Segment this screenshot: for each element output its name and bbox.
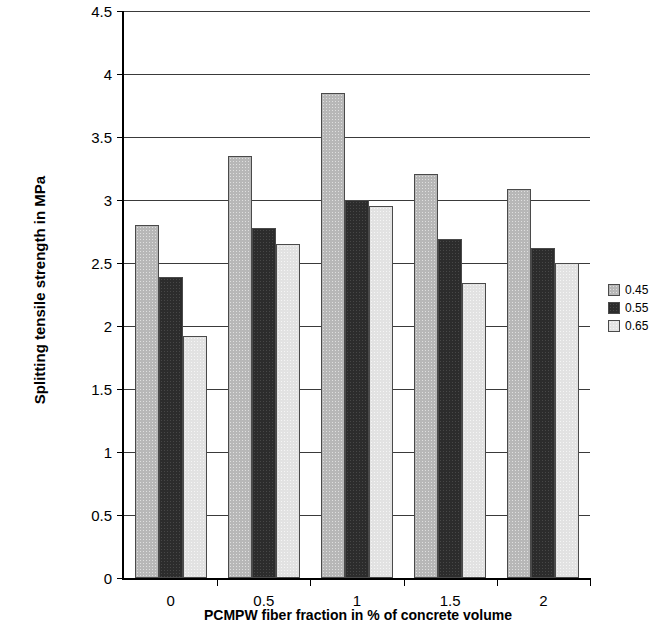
x-tick-mark (497, 578, 498, 586)
x-tick-mark (404, 578, 405, 586)
y-tick-mark (117, 74, 124, 75)
y-tick-label: 4.5 (91, 3, 112, 20)
y-tick-label: 1.5 (91, 381, 112, 398)
y-tick-mark (117, 389, 124, 390)
y-tick-label: 0.5 (91, 507, 112, 524)
y-tick-mark (117, 452, 124, 453)
y-tick-label: 2 (104, 318, 112, 335)
y-tick-mark (117, 326, 124, 327)
bar-0.55-0.5 (252, 228, 276, 578)
y-axis-title: Splitting tensile strength in MPa (26, 0, 52, 580)
bar-0.55-1.5 (438, 239, 462, 578)
x-tick-mark (217, 578, 218, 586)
legend-item-0.45: 0.45 (608, 283, 648, 297)
legend-item-0.55: 0.55 (608, 301, 648, 315)
y-tick-mark (117, 200, 124, 201)
y-tick-label: 2.5 (91, 255, 112, 272)
y-tick-label: 3.5 (91, 129, 112, 146)
y-tick-label: 3 (104, 192, 112, 209)
x-tick-mark (310, 578, 311, 586)
y-tick-label: 1 (104, 444, 112, 461)
bar-0.45-1.5 (414, 174, 438, 578)
bar-0.65-1.5 (462, 283, 486, 578)
bar-0.55-0 (159, 277, 183, 578)
legend-label: 0.65 (625, 320, 648, 332)
legend-label: 0.45 (625, 284, 648, 296)
gridline (124, 74, 590, 75)
y-tick-mark (117, 515, 124, 516)
x-tick-mark (590, 578, 591, 586)
bar-0.65-0 (183, 336, 207, 578)
y-tick-label: 0 (104, 570, 112, 587)
legend-swatch-icon (608, 320, 620, 332)
gridline (124, 11, 590, 12)
bar-0.45-2 (507, 189, 531, 578)
bar-0.65-0.5 (276, 244, 300, 578)
y-tick-label: 4 (104, 66, 112, 83)
y-tick-mark (117, 578, 124, 579)
y-tick-mark (117, 263, 124, 264)
legend-swatch-icon (608, 284, 620, 296)
plot-area: 00.511.522.533.544.5 00.511.52 (122, 11, 590, 580)
legend-swatch-icon (608, 302, 620, 314)
legend-item-0.65: 0.65 (608, 319, 648, 333)
x-axis-title: PCMPW fiber fraction in % of concrete vo… (118, 607, 598, 623)
bar-0.65-1 (369, 206, 393, 578)
bar-0.45-0 (135, 225, 159, 578)
y-tick-mark (117, 11, 124, 12)
y-tick-mark (117, 137, 124, 138)
chart-figure: Splitting tensile strength in MPa 00.511… (0, 0, 649, 635)
bar-0.45-0.5 (228, 156, 252, 578)
gridline (124, 137, 590, 138)
legend: 0.450.550.65 (608, 283, 648, 333)
bar-0.65-2 (555, 263, 579, 578)
bar-0.55-1 (345, 200, 369, 578)
legend-label: 0.55 (625, 302, 648, 314)
bar-0.45-1 (321, 93, 345, 578)
bar-0.55-2 (531, 248, 555, 578)
